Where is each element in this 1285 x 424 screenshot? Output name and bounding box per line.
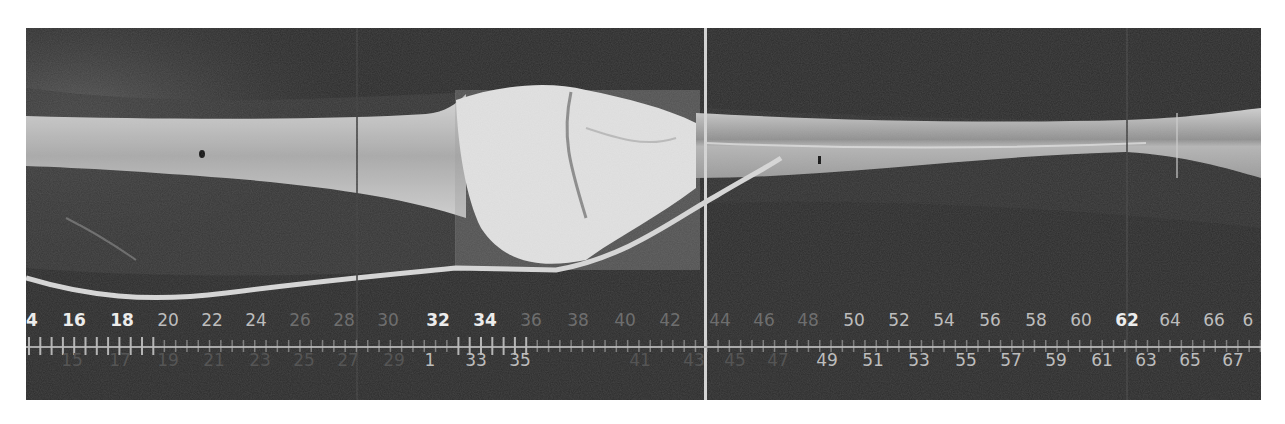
ruler-bottom-label: 1 bbox=[425, 350, 436, 370]
ruler-top-label: 52 bbox=[888, 310, 910, 330]
ruler-top-label: 30 bbox=[377, 310, 399, 330]
ruler-top-label: 14 bbox=[26, 310, 38, 330]
ruler-bottom-label: 51 bbox=[862, 350, 884, 370]
ruler-top-label: 66 bbox=[1203, 310, 1225, 330]
ruler-bottom-labels: 3151719212325272913335414345474951535557… bbox=[26, 350, 1261, 374]
ruler-top-label: 32 bbox=[426, 310, 450, 330]
radiograph-image bbox=[26, 28, 1261, 400]
ruler-bottom-label: 25 bbox=[293, 350, 315, 370]
ruler-top-label: 62 bbox=[1115, 310, 1139, 330]
ruler-top-label: 50 bbox=[843, 310, 865, 330]
ruler-top-label: 44 bbox=[709, 310, 731, 330]
ruler-bottom-label: 67 bbox=[1222, 350, 1244, 370]
ruler-top-label: 48 bbox=[797, 310, 819, 330]
ruler-bottom-label: 29 bbox=[383, 350, 405, 370]
ruler-bottom-label: 53 bbox=[908, 350, 930, 370]
ruler-top-label: 34 bbox=[473, 310, 497, 330]
ruler-top-label: 16 bbox=[62, 310, 86, 330]
ruler-bottom-label: 59 bbox=[1045, 350, 1067, 370]
ruler-top-label: 60 bbox=[1070, 310, 1092, 330]
ruler-bottom-label: 45 bbox=[724, 350, 746, 370]
ruler-bottom-label: 55 bbox=[955, 350, 977, 370]
ruler-bottom-label: 41 bbox=[629, 350, 651, 370]
ruler-top-label: 64 bbox=[1159, 310, 1181, 330]
ruler-top-label: 20 bbox=[157, 310, 179, 330]
ruler-bottom-label: 27 bbox=[337, 350, 359, 370]
ruler-top-label: 42 bbox=[659, 310, 681, 330]
ruler-bottom-label: 15 bbox=[61, 350, 83, 370]
ruler-bottom-label: 63 bbox=[1135, 350, 1157, 370]
ruler-top-labels: 1416182022242628303234363840424446485052… bbox=[26, 310, 1261, 334]
ruler-bottom-label: 19 bbox=[157, 350, 179, 370]
ruler-top-label: 26 bbox=[289, 310, 311, 330]
ruler-bottom-label: 35 bbox=[509, 350, 531, 370]
ruler-bottom-label: 57 bbox=[1000, 350, 1022, 370]
ruler-bottom-label: 61 bbox=[1091, 350, 1113, 370]
ruler-bottom-label: 33 bbox=[465, 350, 487, 370]
ruler-bottom-label: 17 bbox=[109, 350, 131, 370]
ruler-top-label: 54 bbox=[933, 310, 955, 330]
ruler-top-label: 28 bbox=[333, 310, 355, 330]
ruler-bottom-label: 49 bbox=[816, 350, 838, 370]
ruler-bottom-label: 21 bbox=[203, 350, 225, 370]
ruler-bottom-label: 47 bbox=[767, 350, 789, 370]
ruler-top-label: 58 bbox=[1025, 310, 1047, 330]
ruler-top-label: 56 bbox=[979, 310, 1001, 330]
ruler-top-label: 24 bbox=[245, 310, 267, 330]
ruler-bottom-label: 43 bbox=[683, 350, 705, 370]
radiograph-film: 1416182022242628303234363840424446485052… bbox=[26, 28, 1261, 400]
ruler-top-label: 40 bbox=[614, 310, 636, 330]
ruler-top-label: 38 bbox=[567, 310, 589, 330]
ruler-top-label: 18 bbox=[110, 310, 134, 330]
ruler-top-label: 46 bbox=[753, 310, 775, 330]
ruler-bottom-label: 23 bbox=[249, 350, 271, 370]
ruler-bottom-label: 65 bbox=[1179, 350, 1201, 370]
ruler-top-label: 36 bbox=[520, 310, 542, 330]
ruler-top-label: 22 bbox=[201, 310, 223, 330]
ruler-top-label: 6 bbox=[1243, 310, 1254, 330]
